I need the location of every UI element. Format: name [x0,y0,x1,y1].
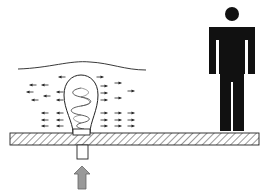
flow-arrow-icon [57,119,60,122]
flow-arrow-icon [132,125,135,128]
flow-arrow-icon [57,91,60,94]
flow-arrow-icon [119,97,122,100]
flow-arrow-icon [105,125,108,128]
flow-arrow-icon [57,125,60,128]
bulb-socket [73,129,90,135]
flow-arrow-icon [32,99,35,102]
flow-arrow-icon [105,112,108,115]
flow-arrow-icon [42,112,45,115]
flow-arrow-icon [119,125,122,128]
flow-arrow-icon [42,119,45,122]
flow-arrow-icon [105,119,108,122]
flow-arrow-icon [119,82,122,85]
flow-arrow-icon [44,95,47,98]
flow-arrow-icon [30,84,33,87]
flow-arrow-icon [101,76,104,79]
flow-arrow-icon [105,85,108,88]
floor-slab [10,133,259,145]
heater-bulb-icon [64,75,98,133]
flow-arrow-icon [119,119,122,122]
supply-stem [77,145,88,159]
flow-arrow-icon [42,84,45,87]
flow-arrow-icon [57,99,60,102]
flow-arrow-icon [105,92,108,95]
flow-arrow-icon [42,125,45,128]
heater-convection-diagram [0,0,260,193]
flow-arrow-icon [132,90,135,93]
flow-arrow-icon [132,112,135,115]
input-arrow-icon [74,166,90,189]
flow-arrow-icon [59,76,62,79]
flow-arrow-icon [57,112,60,115]
flow-arrow-icon [105,99,108,102]
flow-arrow-icon [132,119,135,122]
flow-arrow-icon [119,112,122,115]
warm-air-boundary-curve [18,62,146,70]
flow-arrow-icon [27,91,30,94]
